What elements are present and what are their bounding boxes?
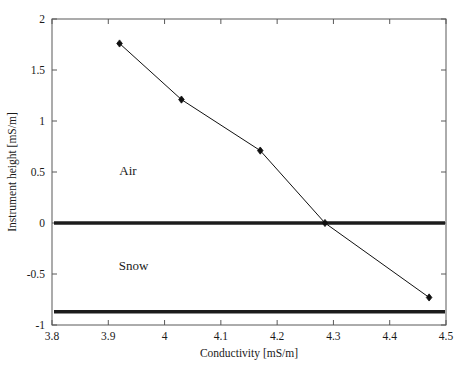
- y-tick-label: 2: [39, 13, 45, 25]
- chart-figure: 3.83.944.14.24.34.44.521.510.50-0.5-1Con…: [0, 0, 472, 370]
- x-axis-title: Conductivity [mS/m]: [200, 347, 298, 360]
- x-tick-label: 4.4: [383, 330, 398, 342]
- data-point-marker: [179, 96, 185, 103]
- y-tick-label: -1: [35, 319, 45, 331]
- x-tick-label: 3.8: [45, 330, 60, 342]
- x-tick-label: 3.9: [101, 330, 116, 342]
- data-point-marker: [426, 294, 432, 301]
- annotation-snow: Snow: [119, 258, 149, 273]
- x-tick-label: 4.2: [270, 330, 285, 342]
- x-tick-label: 4.3: [326, 330, 341, 342]
- x-tick-label: 4.5: [439, 330, 454, 342]
- x-tick-label: 4.1: [214, 330, 229, 342]
- y-axis-title: Instrument height [mS/m]: [6, 112, 19, 231]
- conductivity-vs-instrument-height-chart: 3.83.944.14.24.34.44.521.510.50-0.5-1Con…: [0, 0, 472, 370]
- annotation-air: Air: [119, 163, 137, 178]
- data-point-marker: [117, 40, 123, 47]
- series-line-measurement: [120, 43, 430, 297]
- y-tick-label: -0.5: [27, 268, 45, 280]
- x-tick-label: 4: [162, 330, 168, 342]
- plot-frame: [52, 19, 446, 325]
- y-tick-label: 0.5: [31, 166, 46, 178]
- y-tick-label: 1: [39, 115, 45, 127]
- y-tick-label: 1.5: [31, 64, 46, 76]
- y-tick-label: 0: [39, 217, 45, 229]
